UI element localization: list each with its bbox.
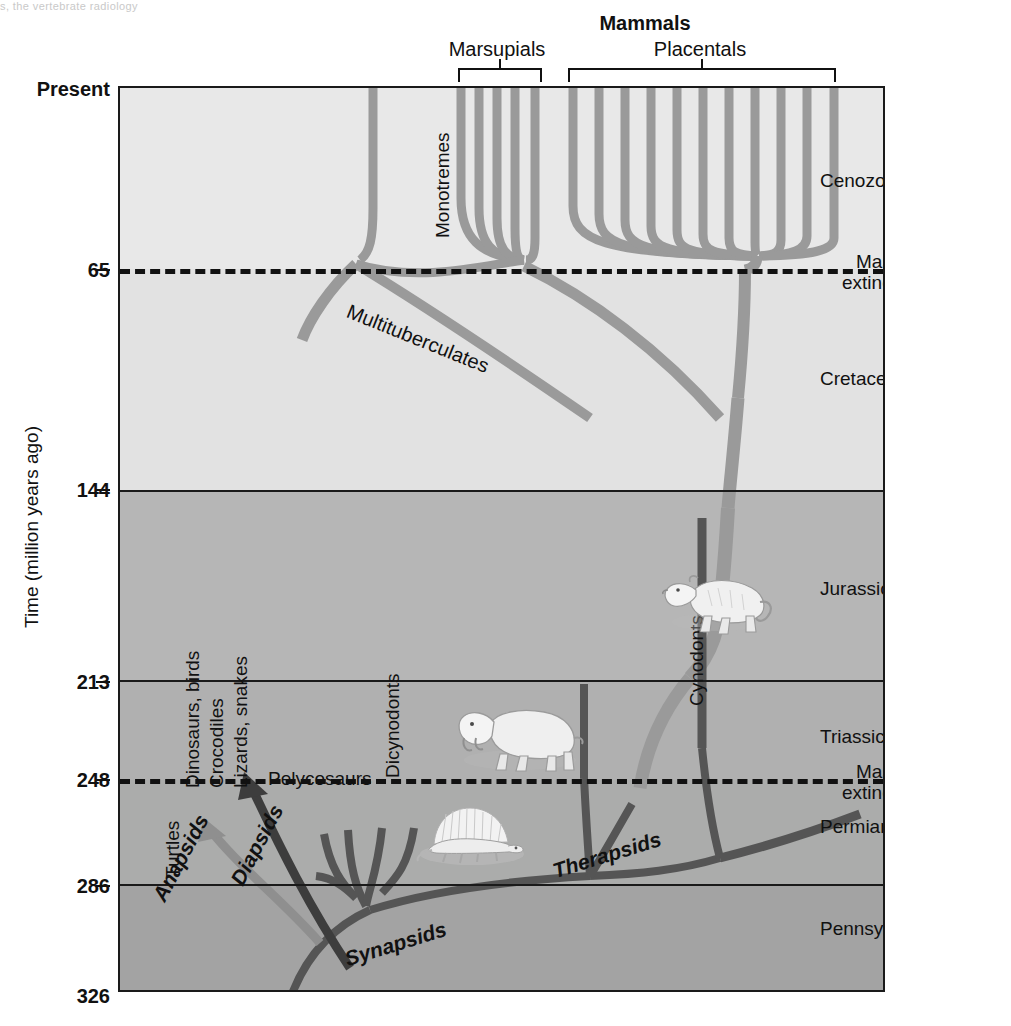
era-label-pennsylvanian: Pennsylvanian <box>820 918 885 940</box>
clade-label-crocodiles: Crocodiles <box>206 698 228 788</box>
clade-label-monotremes: Monotremes <box>432 132 454 238</box>
y-tickmark-248 <box>96 779 110 781</box>
era-line-144 <box>120 490 883 492</box>
marsupials-bracket <box>458 68 542 82</box>
dicynodont-illustration <box>450 698 584 774</box>
y-tick-213: 213 <box>2 671 110 694</box>
plot-area: Cenozoic Cretaceous Jurassic Triassic Pe… <box>118 86 885 992</box>
era-line-286 <box>120 884 883 886</box>
y-tick-65: 65 <box>2 259 110 282</box>
clade-label-lizards-snakes: Lizards, snakes <box>230 656 252 788</box>
marsupials-label: Marsupials <box>449 38 546 61</box>
mammals-title: Mammals <box>599 12 690 35</box>
era-label-jurassic: Jurassic <box>820 578 885 600</box>
y-tick-144: 144 <box>2 479 110 502</box>
mass-extinction-caption-248-line2: extinctions <box>842 782 885 804</box>
placentals-label: Placentals <box>654 38 746 61</box>
clade-label-dinosaurs-birds: Dinosaurs, birds <box>182 651 204 788</box>
y-tickmark-65 <box>96 269 110 271</box>
y-tickmark-144 <box>96 489 110 491</box>
placentals-bracket <box>568 68 836 82</box>
figure-root: s, the vertebrate radiology Mammals Mars… <box>0 0 1011 1026</box>
early-mammal-illustration <box>660 566 776 638</box>
dimetrodon-illustration <box>412 804 532 868</box>
mass-extinction-line-65 <box>120 269 883 274</box>
era-label-cretaceous: Cretaceous <box>820 368 885 390</box>
mass-extinction-caption-65-line1: Mass <box>856 251 885 273</box>
era-label-permian: Permian <box>820 816 885 838</box>
y-axis: Time (million years ago) Present 65 144 … <box>0 86 110 996</box>
y-tickmark-286 <box>96 885 110 887</box>
clade-label-pelycosaurs: Pelycosaurs <box>268 768 372 790</box>
y-axis-title: Time (million years ago) <box>21 407 43 647</box>
mass-extinction-caption-248-line1: Mass <box>856 761 885 783</box>
y-tickmark-213 <box>96 681 110 683</box>
clade-label-dicynodonts: Dicynodonts <box>382 673 404 778</box>
y-tick-248: 248 <box>2 769 110 792</box>
mass-extinction-caption-65-line2: extinctions <box>842 272 885 294</box>
era-label-triassic: Triassic <box>820 726 885 748</box>
scan-bleed-text: s, the vertebrate radiology <box>0 0 1011 16</box>
era-label-cenozoic: Cenozoic <box>820 170 885 192</box>
y-tick-286: 286 <box>2 875 110 898</box>
y-tick-326: 326 <box>2 985 110 1008</box>
y-tick-present: Present <box>2 78 110 101</box>
